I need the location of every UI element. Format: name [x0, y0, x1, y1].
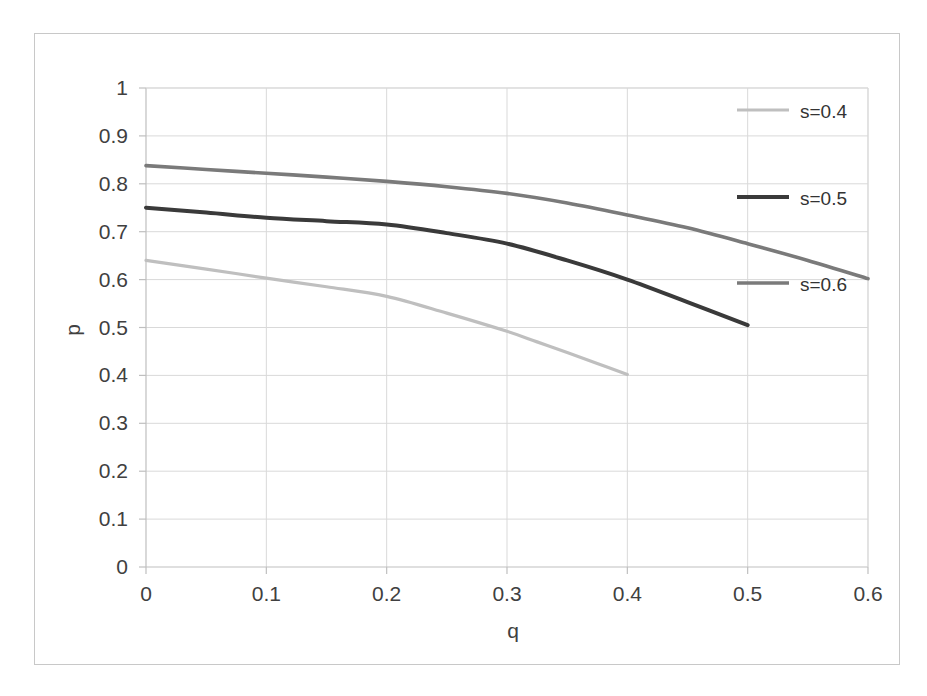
y-tick-label: 0.1 [99, 507, 128, 530]
y-tick-label: 0 [116, 555, 128, 578]
x-tick-label: 0.4 [613, 582, 643, 605]
x-tick-label: 0.6 [853, 582, 882, 605]
chart-figure: 00.10.20.30.40.50.60.70.80.91 00.10.20.3… [0, 0, 927, 696]
x-tick-label: 0.1 [252, 582, 281, 605]
y-tick-label: 1 [116, 76, 128, 99]
series-line-s-0-5 [146, 208, 748, 325]
y-tick-label: 0.8 [99, 172, 128, 195]
plot-gridlines [146, 88, 868, 567]
x-tick-label: 0 [140, 582, 152, 605]
legend-label-s-0-6: s=0.6 [800, 274, 847, 295]
y-tick-label: 0.3 [99, 411, 128, 434]
y-tick-label: 0.9 [99, 124, 128, 147]
y-tick-label: 0.5 [99, 316, 128, 339]
y-axis-tick-labels: 00.10.20.30.40.50.60.70.80.91 [99, 76, 146, 578]
chart-canvas: 00.10.20.30.40.50.60.70.80.91 00.10.20.3… [0, 0, 927, 696]
x-tick-label: 0.5 [733, 582, 762, 605]
y-tick-label: 0.4 [99, 363, 129, 386]
x-tick-label: 0.3 [492, 582, 521, 605]
legend-label-s-0-5: s=0.5 [800, 188, 847, 209]
x-tick-label: 0.2 [372, 582, 401, 605]
y-axis-title: p [61, 324, 84, 336]
y-tick-label: 0.6 [99, 268, 128, 291]
x-axis-tick-labels: 00.10.20.30.40.50.6 [140, 567, 882, 605]
legend-label-s-0-4: s=0.4 [800, 101, 847, 122]
x-axis-title: q [507, 619, 519, 642]
y-tick-label: 0.7 [99, 220, 128, 243]
y-tick-label: 0.2 [99, 459, 128, 482]
